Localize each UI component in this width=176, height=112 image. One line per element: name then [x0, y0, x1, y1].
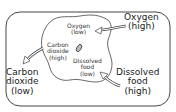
outside-co2-level: (low) [6, 87, 39, 96]
outside-oxygen-label: Oxygen (high) [124, 13, 159, 32]
nucleus [75, 43, 83, 52]
inside-oxygen-level: (low) [67, 29, 90, 35]
outside-carbon-dioxide-label: Carbon dioxide (low) [6, 68, 39, 96]
inside-oxygen-label: Oxygen (low) [67, 23, 90, 36]
inside-carbon-dioxide-label: Carbon dioxide (high) [47, 42, 69, 61]
outside-food-level: (high) [116, 87, 159, 96]
inside-food-level: (low) [73, 71, 102, 77]
outside-food-label: Dissolved food (high) [116, 68, 159, 96]
inside-co2-level: (high) [47, 55, 69, 61]
inside-food-label: Dissolved food (low) [73, 58, 102, 77]
outside-oxygen-level: (high) [124, 22, 159, 31]
carbon-dioxide-out-arrow [23, 48, 43, 64]
